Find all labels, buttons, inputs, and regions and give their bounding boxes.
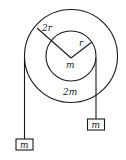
inner-mass-label: m bbox=[66, 60, 75, 70]
left-block-label: m bbox=[20, 140, 29, 150]
inner-radius-label: r bbox=[79, 38, 84, 48]
inner-disk bbox=[46, 31, 96, 81]
right-block-label: m bbox=[92, 120, 101, 130]
outer-radius-label: 2r bbox=[41, 23, 53, 33]
pulley-diagram: 2r r m 2m m m bbox=[0, 0, 126, 160]
outer-mass-label: 2m bbox=[62, 87, 77, 97]
